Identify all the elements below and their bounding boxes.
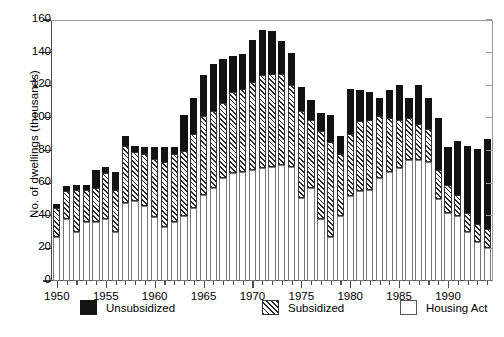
bar-1982	[366, 92, 373, 281]
bar-segment-housing	[454, 216, 461, 281]
bar-1960	[151, 147, 158, 281]
bar-1961	[161, 147, 168, 281]
x-tick-major	[57, 281, 58, 288]
y-tick-label: 60	[25, 176, 51, 188]
x-tick-minor	[164, 281, 165, 285]
legend-swatch-unsub	[80, 300, 97, 315]
bar-1956	[112, 172, 119, 281]
bar-1993	[474, 149, 481, 281]
bar-1984	[386, 90, 393, 281]
bar-segment-unsub	[327, 115, 334, 143]
bar-1974	[288, 53, 295, 281]
bar-segment-subs	[298, 111, 305, 197]
bar-segment-housing	[307, 188, 314, 281]
bar-segment-housing	[484, 248, 491, 281]
y-tick-mark-right	[486, 215, 492, 216]
bar-1962	[171, 147, 178, 281]
bar-segment-unsub	[73, 185, 80, 190]
bar-segment-unsub	[298, 87, 305, 111]
bar-segment-subs	[347, 134, 354, 196]
bar-segment-unsub	[386, 90, 393, 118]
legend-label: Housing Act	[426, 302, 487, 314]
y-tick-mark-right	[486, 52, 492, 53]
bar-segment-housing	[229, 173, 236, 281]
bar-segment-subs	[190, 134, 197, 207]
legend-item-unsub: Unsubsidized	[80, 300, 175, 315]
y-tick-mark-right	[486, 117, 492, 118]
bar-segment-unsub	[171, 147, 178, 154]
bar-segment-subs	[366, 120, 373, 190]
bar-segment-subs	[474, 224, 481, 242]
bar-segment-housing	[259, 168, 266, 281]
bar-1950	[53, 204, 60, 281]
bar-segment-subs	[259, 75, 266, 168]
bar-segment-subs	[151, 159, 158, 218]
x-tick-minor	[243, 281, 244, 285]
bar-segment-unsub	[249, 40, 256, 82]
y-tick-label: 20	[25, 241, 51, 253]
bar-segment-subs	[102, 173, 109, 219]
y-tick-mark-right	[486, 19, 492, 20]
x-tick-major	[301, 281, 302, 288]
x-tick-minor	[409, 281, 410, 285]
bar-segment-subs	[83, 190, 90, 223]
bar-segment-subs	[239, 89, 246, 172]
bar-segment-subs	[484, 229, 491, 249]
bar-segment-housing	[435, 199, 442, 281]
bar-segment-subs	[444, 185, 451, 213]
bar-1957	[122, 136, 129, 281]
bar-1977	[317, 113, 324, 281]
bar-segment-unsub	[396, 85, 403, 119]
bar-segment-housing	[92, 222, 99, 281]
x-tick-minor	[331, 281, 332, 285]
bar-segment-unsub	[356, 90, 363, 121]
bar-1987	[415, 85, 422, 281]
bar-segment-housing	[278, 165, 285, 281]
bar-1980	[347, 89, 354, 281]
legend-label: Subsidized	[288, 302, 344, 314]
bar-segment-unsub	[102, 167, 109, 174]
bar-segment-unsub	[278, 41, 285, 74]
x-tick-major	[252, 281, 253, 288]
bar-1989	[435, 118, 442, 281]
bar-segment-subs	[464, 213, 471, 233]
bar-1968	[229, 56, 236, 281]
bar-segment-housing	[366, 190, 373, 281]
x-tick-minor	[76, 281, 77, 285]
bar-segment-housing	[131, 201, 138, 281]
bar-1970	[249, 40, 256, 281]
bar-1991	[454, 141, 461, 281]
y-tick-mark-right	[486, 248, 492, 249]
bar-segment-unsub	[190, 98, 197, 134]
x-tick-major	[155, 281, 156, 288]
bar-1992	[464, 146, 471, 281]
bar-segment-unsub	[405, 98, 412, 118]
x-tick-minor	[282, 281, 283, 285]
y-tick-mark-right	[486, 150, 492, 151]
bar-segment-housing	[396, 168, 403, 281]
bar-segment-housing	[161, 227, 168, 281]
x-tick-minor	[292, 281, 293, 285]
bar-segment-housing	[200, 195, 207, 281]
bar-segment-housing	[347, 196, 354, 281]
y-tick-label: 0	[25, 274, 51, 286]
bar-segment-unsub	[268, 31, 275, 73]
y-tick-label: 140	[25, 46, 51, 58]
chart-figure: No. of dwellings (thousands) 02040608010…	[0, 0, 504, 337]
bar-segment-unsub	[415, 85, 422, 124]
bar-segment-housing	[53, 237, 60, 281]
bar-segment-housing	[356, 191, 363, 281]
bar-series-group	[51, 20, 493, 281]
bar-1979	[337, 136, 344, 281]
bar-1952	[73, 185, 80, 281]
bar-segment-housing	[425, 162, 432, 281]
x-tick-minor	[311, 281, 312, 285]
bar-segment-subs	[396, 120, 403, 169]
x-tick-minor	[419, 281, 420, 285]
bar-segment-housing	[180, 216, 187, 281]
x-tick-minor	[262, 281, 263, 285]
legend-label: Unsubsidized	[106, 302, 175, 314]
x-tick-minor	[174, 281, 175, 285]
bar-segment-unsub	[464, 146, 471, 213]
bar-1955	[102, 167, 109, 281]
